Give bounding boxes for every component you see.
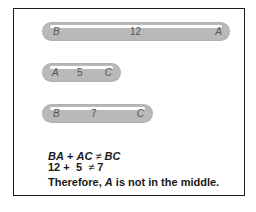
conclusion-point: A <box>105 176 113 188</box>
equation-values: 12 + 5 ≠ 7 <box>48 161 103 173</box>
segment-BC: B 7 C <box>42 104 153 123</box>
segment-length: 12 <box>130 26 141 38</box>
term: 7 <box>97 161 103 173</box>
endpoint-label: C <box>137 108 144 120</box>
bar-highlight <box>50 107 145 110</box>
conclusion-prefix: Therefore, <box>48 176 105 188</box>
not-equal-sign: ≠ <box>88 161 94 173</box>
endpoint-label: A <box>52 67 59 79</box>
endpoint-label: A <box>215 26 222 38</box>
operator: + <box>63 161 69 173</box>
endpoint-label: B <box>53 26 60 38</box>
conclusion-suffix: is not in the middle. <box>113 176 219 188</box>
segment-length: 7 <box>91 108 97 120</box>
endpoint-label: C <box>105 67 112 79</box>
conclusion-text: Therefore, A is not in the middle. <box>48 176 219 188</box>
segment-length: 5 <box>77 67 83 79</box>
segment-AC: A 5 C <box>42 63 121 82</box>
term: 5 <box>76 161 82 173</box>
term: 12 <box>48 161 60 173</box>
segment-BA: B 12 A <box>42 22 230 41</box>
endpoint-label: B <box>53 108 60 120</box>
term: BC <box>105 150 121 162</box>
